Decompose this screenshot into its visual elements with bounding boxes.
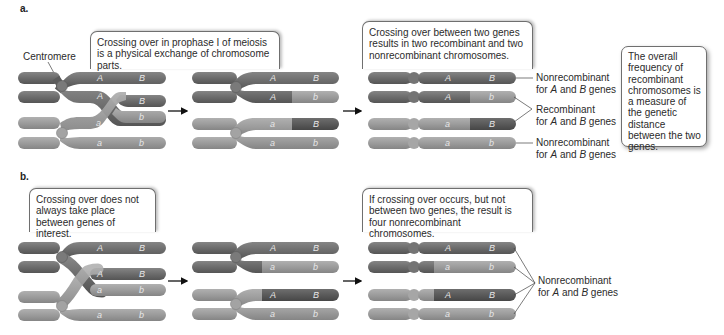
svg-text:A: A xyxy=(96,73,103,83)
connector-line xyxy=(514,97,532,122)
svg-text:a: a xyxy=(445,138,450,148)
connector-lines-b xyxy=(514,248,535,314)
svg-text:B: B xyxy=(313,119,319,129)
svg-text:B: B xyxy=(489,73,495,83)
svg-text:b: b xyxy=(313,92,318,102)
svg-text:b: b xyxy=(139,285,144,295)
svg-text:B: B xyxy=(313,243,319,253)
svg-text:a: a xyxy=(270,262,275,272)
svg-text:A: A xyxy=(444,290,451,300)
svg-text:a: a xyxy=(270,119,275,129)
svg-text:b: b xyxy=(489,309,494,319)
svg-text:B: B xyxy=(489,290,495,300)
svg-text:B: B xyxy=(139,243,145,253)
centromere-dark xyxy=(57,81,68,92)
svg-text:a: a xyxy=(445,119,450,129)
svg-text:A: A xyxy=(269,243,276,253)
svg-text:a: a xyxy=(97,138,102,148)
svg-text:b: b xyxy=(313,309,318,319)
svg-text:A: A xyxy=(269,290,276,300)
panel-b-crossing-group: AB AB ab ab xyxy=(18,242,166,321)
svg-text:b: b xyxy=(139,310,144,320)
svg-text:a: a xyxy=(96,118,101,128)
svg-text:b: b xyxy=(139,112,144,122)
svg-text:A: A xyxy=(444,243,451,253)
panel-a-result-chromosomes: AB Ab aB ab xyxy=(368,72,516,149)
panel-b-exchange-group: AB ab AB ab xyxy=(192,242,339,320)
svg-text:A: A xyxy=(444,73,451,83)
svg-text:a: a xyxy=(97,310,102,320)
panel-a-crossing-group: AB AB ba ab xyxy=(18,72,166,149)
panel-a-exchange-group: AB Ab aB ab xyxy=(192,72,339,149)
svg-text:B: B xyxy=(313,290,319,300)
svg-text:b: b xyxy=(489,92,494,102)
svg-text:a: a xyxy=(445,262,450,272)
svg-text:b: b xyxy=(139,138,144,148)
centromere-light xyxy=(57,128,68,139)
svg-text:b: b xyxy=(489,138,494,148)
svg-text:B: B xyxy=(139,96,145,106)
svg-text:b: b xyxy=(313,138,318,148)
svg-text:B: B xyxy=(139,73,145,83)
svg-text:A: A xyxy=(96,243,103,253)
svg-text:B: B xyxy=(139,269,145,279)
svg-text:A: A xyxy=(269,92,276,102)
svg-text:B: B xyxy=(489,119,495,129)
svg-text:A: A xyxy=(444,92,451,102)
panel-b-result-chromosomes: AB ab AB ab xyxy=(368,242,516,320)
svg-text:a: a xyxy=(270,138,275,148)
svg-text:B: B xyxy=(313,73,319,83)
svg-text:A: A xyxy=(96,91,103,101)
chromosome-diagram: AB AB ba ab AB Ab aB ab xyxy=(0,0,724,335)
svg-text:A: A xyxy=(96,269,103,279)
svg-text:A: A xyxy=(269,73,276,83)
svg-text:a: a xyxy=(270,309,275,319)
svg-text:a: a xyxy=(97,285,102,295)
svg-text:B: B xyxy=(489,243,495,253)
svg-text:b: b xyxy=(489,262,494,272)
svg-text:b: b xyxy=(313,262,318,272)
svg-text:a: a xyxy=(445,309,450,319)
